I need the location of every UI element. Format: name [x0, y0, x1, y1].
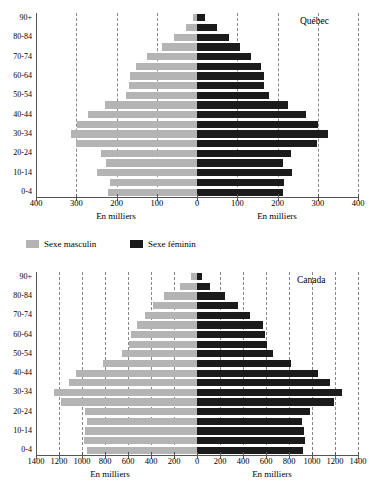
y-tick-label-30-34: 30-34 [13, 130, 32, 138]
x-tick-label: 300 [56, 199, 96, 208]
bar-male-35-39 [69, 379, 197, 386]
gridline [358, 272, 359, 455]
bar-male-40-44 [88, 111, 197, 118]
bar-male-60-64 [130, 72, 197, 79]
bar-male-40-44 [76, 370, 197, 377]
x-tick-label: 100 [217, 199, 257, 208]
bar-female-55-59 [197, 341, 267, 348]
y-tick-label-80-84: 80-84 [13, 33, 32, 41]
y-tick-label-70-74: 70-74 [13, 53, 32, 61]
bar-male-25-29 [61, 398, 197, 405]
bar-female-85-89 [197, 24, 217, 31]
bar-female-35-39 [197, 121, 318, 128]
y-tick-label-70-74: 70-74 [13, 311, 32, 319]
bar-female-45-49 [197, 360, 291, 367]
y-tick-label-10-14: 10-14 [13, 169, 32, 177]
bar-female-0-4 [197, 447, 303, 454]
bar-female-75-79 [197, 43, 240, 50]
bar-male-50-54 [122, 350, 197, 357]
bar-female-40-44 [197, 370, 318, 377]
x-tick-label: 400 [338, 199, 375, 208]
chart-quebec: 40030020010001002003004000-410-1420-2430… [0, 0, 375, 232]
bar-male-5-9 [110, 179, 197, 186]
bar-male-45-49 [105, 101, 197, 108]
x-tick-label: 200 [258, 199, 298, 208]
bar-female-10-14 [197, 169, 292, 176]
x-axis-caption-right: En milliers [232, 469, 312, 479]
bar-male-65-69 [136, 63, 197, 70]
bar-male-25-29 [76, 140, 197, 147]
y-tick-label-50-54: 50-54 [13, 91, 32, 99]
x-tick-label: 1400 [338, 457, 375, 466]
bar-female-75-79 [197, 302, 238, 309]
bar-male-65-69 [137, 321, 197, 328]
bar-female-10-14 [197, 427, 304, 434]
bar-male-75-79 [153, 302, 197, 309]
x-tick-label: 100 [137, 199, 177, 208]
x-tick-label: 0 [177, 199, 217, 208]
bar-female-65-69 [197, 321, 263, 328]
bar-male-55-59 [129, 341, 197, 348]
y-tick-label-90+: 90+ [19, 273, 32, 281]
bar-male-50-54 [126, 92, 197, 99]
gridline [335, 272, 336, 455]
bar-female-60-64 [197, 331, 265, 338]
bar-female-5-9 [197, 437, 305, 444]
bar-male-45-49 [103, 360, 197, 367]
bar-male-20-24 [85, 408, 197, 415]
bar-female-70-74 [197, 53, 251, 60]
y-tick-label-20-24: 20-24 [13, 149, 32, 157]
bar-male-15-19 [87, 418, 197, 425]
bar-male-70-74 [145, 312, 197, 319]
legend-label: Sexe féminin [148, 239, 196, 249]
bar-female-90+ [197, 14, 205, 21]
bar-male-30-34 [54, 389, 197, 396]
bar-male-30-34 [71, 130, 197, 137]
region-title: Canada [297, 275, 326, 285]
x-axis-caption-left: En milliers [76, 211, 156, 221]
bar-female-80-84 [197, 292, 225, 299]
x-tick-label: 400 [16, 199, 56, 208]
bar-male-70-74 [147, 53, 197, 60]
legend-item-male: Sexe masculin [26, 238, 96, 250]
gridline [358, 13, 359, 197]
y-tick-label-0-4: 0-4 [21, 188, 32, 196]
bar-male-85-89 [186, 24, 197, 31]
bar-male-35-39 [77, 121, 197, 128]
gridline [76, 13, 77, 197]
bar-male-55-59 [129, 82, 197, 89]
bar-female-5-9 [197, 179, 284, 186]
gridline [59, 272, 60, 455]
bar-female-0-4 [197, 189, 283, 196]
bar-female-45-49 [197, 101, 288, 108]
bar-female-20-24 [197, 150, 291, 157]
x-tick-label: 300 [298, 199, 338, 208]
bar-female-70-74 [197, 312, 250, 319]
bar-female-50-54 [197, 92, 269, 99]
gridline [82, 272, 83, 455]
y-tick-label-0-4: 0-4 [21, 446, 32, 454]
bar-male-85-89 [180, 283, 197, 290]
bar-female-35-39 [197, 379, 330, 386]
x-axis-caption-right: En milliers [237, 211, 317, 221]
bar-female-25-29 [197, 140, 317, 147]
bar-male-75-79 [162, 43, 197, 50]
y-tick-label-50-54: 50-54 [13, 350, 32, 358]
bar-male-10-14 [85, 427, 197, 434]
female-swatch [130, 240, 143, 248]
population-pyramid-figure: 40030020010001002003004000-410-1420-2430… [0, 0, 375, 489]
bar-male-80-84 [174, 34, 197, 41]
gridline [312, 272, 313, 455]
y-tick-label-60-64: 60-64 [13, 331, 32, 339]
bar-female-25-29 [197, 398, 334, 405]
y-tick-label-90+: 90+ [19, 14, 32, 22]
bar-female-90+ [197, 273, 202, 280]
x-tick-label: 200 [97, 199, 137, 208]
bar-male-60-64 [131, 331, 197, 338]
bar-female-50-54 [197, 350, 273, 357]
bar-male-10-14 [97, 169, 197, 176]
y-tick-label-10-14: 10-14 [13, 427, 32, 435]
y-tick-label-40-44: 40-44 [13, 111, 32, 119]
bar-female-15-19 [197, 159, 283, 166]
gridline [318, 13, 319, 197]
